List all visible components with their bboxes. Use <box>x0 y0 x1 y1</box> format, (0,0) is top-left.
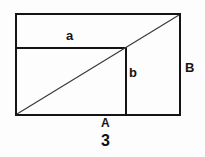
figure-number: 3 <box>101 133 110 149</box>
diagonal-line <box>17 15 179 114</box>
label-a-uppercase: A <box>101 117 110 129</box>
label-b: b <box>129 66 137 79</box>
label-a: a <box>66 29 73 42</box>
label-b-uppercase: B <box>185 61 194 74</box>
figure-container: a b B A 3 <box>0 0 205 157</box>
